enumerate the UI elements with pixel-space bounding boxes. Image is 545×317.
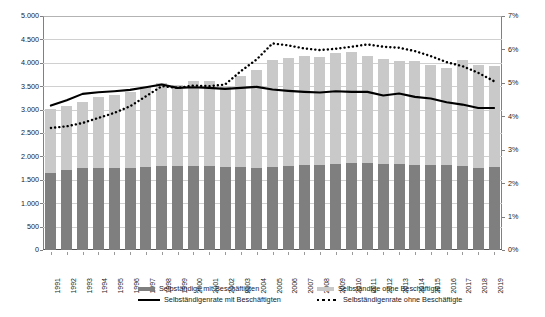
line-rate-with-employees — [51, 85, 494, 108]
legend-label: Selbständigenrate ohne Beschäftigte — [343, 296, 462, 304]
x-axis-tick-mark — [352, 252, 353, 255]
x-axis-tick-mark — [241, 252, 242, 255]
x-axis-tick-mark — [193, 252, 194, 255]
left-axis-tick-label: 4.000 — [3, 59, 39, 66]
x-axis-tick-mark — [225, 252, 226, 255]
right-axis-tick-label: 2% — [508, 180, 538, 187]
x-axis-tick-mark — [494, 252, 495, 255]
left-axis-tick-label: 0 — [3, 246, 39, 253]
x-axis-tick-mark — [462, 252, 463, 255]
left-axis-tick-label: 1.000 — [3, 200, 39, 207]
right-axis-tick-label: 6% — [508, 46, 538, 53]
x-axis-tick-mark — [367, 252, 368, 255]
plot-area — [43, 16, 502, 250]
x-axis-tick-mark — [288, 252, 289, 255]
x-axis-tick-mark — [146, 252, 147, 255]
x-axis-tick-mark — [431, 252, 432, 255]
left-axis-tick-label: 4.500 — [3, 36, 39, 43]
right-axis-tick-mark — [502, 183, 505, 184]
x-axis-tick-mark — [98, 252, 99, 255]
legend-dot — [317, 299, 319, 301]
legend-item[interactable]: Selbständigenrate ohne Beschäftigte — [317, 296, 462, 304]
right-axis-tick-label: 7% — [508, 12, 538, 19]
legend-item[interactable]: Selbständigenrate mit Beschäftigten — [138, 296, 281, 304]
legend-label: Selbständige mit Beschäftigten — [159, 285, 259, 293]
x-axis-tick-mark — [162, 252, 163, 255]
legend-label: Selbständige ohne Beschäftigte — [338, 285, 441, 293]
legend-swatch-solid-line — [138, 299, 160, 301]
left-axis-tick-label: 500 — [3, 223, 39, 230]
right-axis-tick-label: 5% — [508, 79, 538, 86]
legend-dot — [328, 299, 330, 301]
x-axis-tick-mark — [336, 252, 337, 255]
right-axis-tick-mark — [502, 16, 505, 17]
legend-dot — [322, 299, 324, 301]
legend-swatch-bar-with-employees — [138, 287, 155, 291]
x-axis-tick-mark — [67, 252, 68, 255]
x-axis-tick-mark — [130, 252, 131, 255]
right-axis-tick-mark — [502, 150, 505, 151]
legend-dot — [333, 299, 335, 301]
x-axis-tick-mark — [304, 252, 305, 255]
x-axis-tick-mark — [209, 252, 210, 255]
x-axis-tick-mark — [383, 252, 384, 255]
x-axis-tick-mark — [114, 252, 115, 255]
right-axis-tick-label: 3% — [508, 146, 538, 153]
left-axis-tick-label: 2.000 — [3, 153, 39, 160]
legend-label: Selbständigenrate mit Beschäftigten — [164, 296, 281, 304]
legend-swatch-bar-without-employees — [317, 287, 334, 291]
right-axis-tick-label: 0% — [508, 246, 538, 253]
x-axis-tick-mark — [320, 252, 321, 255]
left-axis-tick-label: 2.500 — [3, 129, 39, 136]
x-axis-tick-mark — [399, 252, 400, 255]
x-axis-tick-mark — [447, 252, 448, 255]
legend-item[interactable]: Selbständige mit Beschäftigten — [138, 285, 259, 293]
line-rate-without-employees — [51, 43, 494, 128]
right-axis-tick-mark — [502, 49, 505, 50]
x-axis-tick-mark — [83, 252, 84, 255]
right-axis-tick-mark — [502, 116, 505, 117]
right-axis-tick-mark — [502, 250, 505, 251]
left-axis-tick-label: 1.500 — [3, 176, 39, 183]
x-axis-tick-mark — [257, 252, 258, 255]
right-axis-tick-label: 4% — [508, 113, 538, 120]
left-axis-tick-label: 5.000 — [3, 12, 39, 19]
legend-item[interactable]: Selbständige ohne Beschäftigte — [317, 285, 441, 293]
x-axis-tick-mark — [51, 252, 52, 255]
x-axis-tick-mark — [478, 252, 479, 255]
legend-swatch-dotted-line — [317, 299, 339, 302]
x-axis-tick-mark — [273, 252, 274, 255]
right-axis-tick-mark — [502, 83, 505, 84]
line-overlay — [43, 16, 502, 250]
left-axis-tick-label: 3.500 — [3, 83, 39, 90]
right-axis-tick-mark — [502, 217, 505, 218]
x-axis-tick-mark — [415, 252, 416, 255]
x-axis-tick-mark — [178, 252, 179, 255]
right-axis-tick-label: 1% — [508, 213, 538, 220]
chart-root: Tausend 05001.0001.5002.0002.5003.0003.5… — [0, 0, 545, 317]
left-axis-tick-label: 3.000 — [3, 106, 39, 113]
left-axis-tick-mark — [40, 250, 43, 251]
chart-legend: Selbständige mit BeschäftigtenSelbständi… — [0, 285, 545, 311]
